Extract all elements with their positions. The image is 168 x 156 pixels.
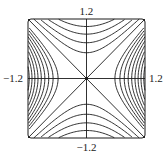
- y-min-tick-label: −1.2: [77, 142, 97, 153]
- saddle-point-marker: [85, 77, 89, 81]
- contour-plot: [0, 0, 168, 156]
- x-max-tick-label: 1.2: [149, 73, 163, 84]
- x-min-tick-label: −1.2: [3, 73, 23, 84]
- y-max-tick-label: 1.2: [80, 6, 94, 17]
